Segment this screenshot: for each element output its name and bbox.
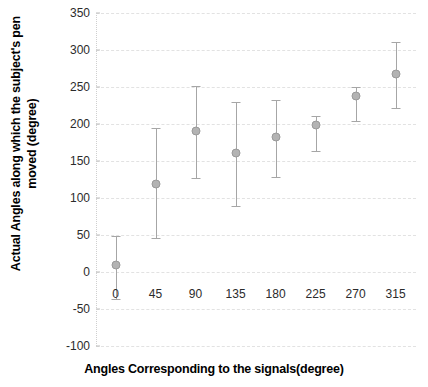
data-point-marker — [231, 148, 240, 157]
x-tick-label: 225 — [296, 287, 336, 301]
gridline — [96, 346, 416, 347]
error-bar-cap-upper — [311, 116, 320, 117]
y-tick-label: 150 — [50, 154, 90, 168]
data-point-marker — [351, 91, 360, 100]
error-bar-cap-lower — [351, 121, 360, 122]
y-tick-label: -100 — [50, 339, 90, 353]
x-tick-label: 180 — [256, 287, 296, 301]
y-tick-label: 250 — [50, 80, 90, 94]
x-tick-label: 90 — [176, 287, 216, 301]
error-bar-cap-upper — [391, 42, 400, 43]
y-axis-title: Actual Angles along which the subject's … — [9, 9, 40, 279]
gridline — [96, 198, 416, 199]
data-point-marker — [191, 126, 200, 135]
scatter-chart: Actual Angles along which the subject's … — [0, 0, 428, 387]
x-tick-label: 0 — [96, 287, 136, 301]
error-bar-cap-upper — [351, 87, 360, 88]
gridline — [96, 309, 416, 310]
error-bar-cap-lower — [151, 238, 160, 239]
error-bar-cap-lower — [231, 206, 240, 207]
y-tick-label: 300 — [50, 43, 90, 57]
y-tick-label: 0 — [50, 265, 90, 279]
x-tick-label: 135 — [216, 287, 256, 301]
error-bar-cap-upper — [271, 100, 280, 101]
y-tick-label: 100 — [50, 191, 90, 205]
data-point-marker — [391, 70, 400, 79]
error-bar-cap-upper — [231, 102, 240, 103]
gridline — [96, 13, 416, 14]
y-tick-label: 50 — [50, 228, 90, 242]
gridline — [96, 87, 416, 88]
error-bar-cap-lower — [271, 177, 280, 178]
data-point-marker — [311, 120, 320, 129]
error-bar-cap-upper — [151, 128, 160, 129]
x-tick-label: 270 — [336, 287, 376, 301]
data-point-marker — [111, 260, 120, 269]
y-tick-label: -50 — [50, 302, 90, 316]
data-point-marker — [271, 132, 280, 141]
gridline — [96, 50, 416, 51]
gridline — [96, 124, 416, 125]
error-bar-cap-lower — [311, 151, 320, 152]
y-tick-label: 350 — [50, 6, 90, 20]
error-bar-cap-upper — [111, 236, 120, 237]
data-point-marker — [151, 179, 160, 188]
error-bar-cap-lower — [191, 178, 200, 179]
error-bar-cap-lower — [391, 108, 400, 109]
x-tick-label: 45 — [136, 287, 176, 301]
x-axis-title: Angles Corresponding to the signals(degr… — [0, 362, 428, 376]
y-axis-line — [96, 13, 97, 346]
gridline — [96, 272, 416, 273]
gridline — [96, 161, 416, 162]
y-tick-label: 200 — [50, 117, 90, 131]
error-bar-cap-upper — [191, 86, 200, 87]
x-tick-label: 315 — [376, 287, 416, 301]
gridline — [96, 235, 416, 236]
